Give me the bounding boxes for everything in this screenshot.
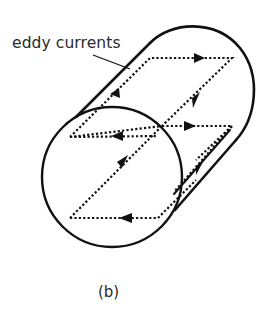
eddy-current-cylinder-diagram: eddy currents (b) (0, 0, 272, 317)
arrow-right-icon (184, 121, 196, 131)
leader-line (93, 55, 130, 69)
arrow-right-icon (194, 53, 205, 63)
figure-caption: (b) (98, 283, 119, 301)
arrow-left-icon (119, 213, 132, 223)
direction-arrows (110, 53, 205, 223)
cylinder-outline (76, 26, 254, 210)
eddy-currents-label: eddy currents (12, 34, 121, 52)
arrow-left-icon (111, 131, 123, 141)
